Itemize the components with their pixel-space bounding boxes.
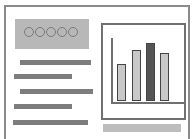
bar-chart-panel [101,23,186,120]
y-axis [111,38,113,103]
chart-bar [146,43,155,101]
carousel-dot-icon [57,27,67,37]
carousel-dot-icon [24,27,34,37]
carousel-dot-icon [68,27,78,37]
text-line-placeholder [20,60,91,65]
carousel-dot-icon [46,27,56,37]
chart-bar [117,64,126,101]
x-axis [111,102,185,104]
caption-bar [103,124,181,132]
carousel-dots [24,27,78,37]
text-line-placeholder [20,89,93,94]
hero-banner [15,19,89,49]
text-line-placeholder [13,120,88,125]
chart-bar [132,50,141,101]
text-line-placeholder [14,104,72,109]
chart-bar [160,53,169,101]
carousel-dot-icon [35,27,45,37]
text-line-placeholder [14,74,72,79]
